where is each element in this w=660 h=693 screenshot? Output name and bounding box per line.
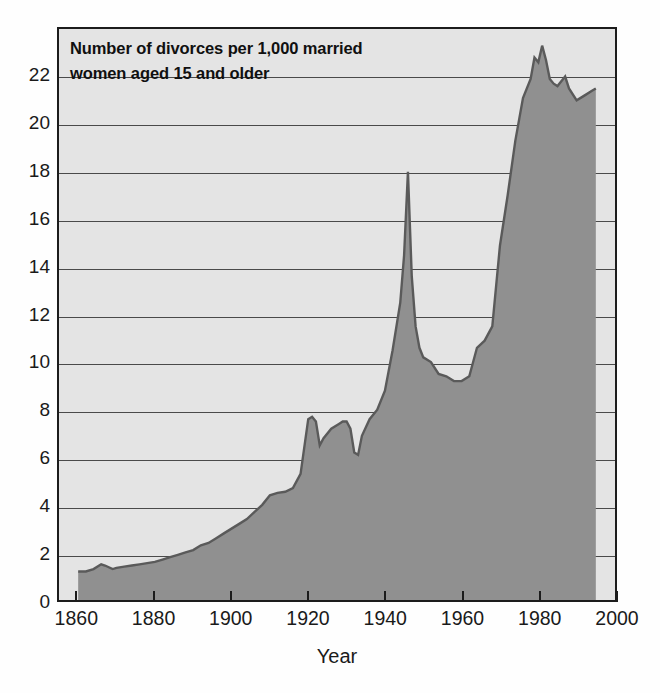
x-axis-tick-label: 1900 bbox=[209, 607, 252, 630]
divorce-rate-chart-figure: 0246810121416182022 Number of divorces p… bbox=[0, 0, 660, 693]
x-axis-tick-label: 1860 bbox=[55, 607, 98, 630]
divorce-rate-area-series bbox=[59, 29, 615, 600]
x-axis-tick-label: 1960 bbox=[441, 607, 484, 630]
x-axis-tick-mark bbox=[307, 591, 309, 602]
y-axis-tick-label: 16 bbox=[4, 208, 50, 230]
x-axis-tick-mark bbox=[462, 591, 464, 602]
chart-title-line-1: Number of divorces per 1,000 married bbox=[70, 36, 490, 61]
y-axis-tick-label: 12 bbox=[4, 304, 50, 326]
chart-title: Number of divorces per 1,000 married wom… bbox=[70, 36, 490, 86]
y-axis-tick-label: 0 bbox=[4, 591, 50, 613]
y-axis-tick-label: 2 bbox=[4, 543, 50, 565]
x-axis-tick-marks bbox=[57, 591, 617, 603]
x-axis-tick-label: 2000 bbox=[595, 607, 638, 630]
x-axis-tick-label: 1940 bbox=[364, 607, 407, 630]
chart-title-line-2: women aged 15 and older bbox=[70, 61, 490, 86]
y-axis-tick-label: 20 bbox=[4, 112, 50, 134]
plot-area bbox=[57, 27, 617, 602]
x-axis-title: Year bbox=[57, 645, 617, 668]
y-axis-tick-label: 14 bbox=[4, 256, 50, 278]
x-axis-tick-label: 1920 bbox=[286, 607, 329, 630]
y-axis-tick-labels: 0246810121416182022 bbox=[0, 0, 50, 693]
y-axis-tick-label: 22 bbox=[4, 64, 50, 86]
x-axis-tick-mark bbox=[384, 591, 386, 602]
y-axis-tick-label: 6 bbox=[4, 447, 50, 469]
x-axis-tick-label: 1880 bbox=[132, 607, 175, 630]
x-axis-tick-label: 1980 bbox=[518, 607, 561, 630]
x-axis-tick-mark bbox=[230, 591, 232, 602]
x-axis-tick-mark bbox=[539, 591, 541, 602]
y-axis-tick-label: 8 bbox=[4, 399, 50, 421]
x-axis-tick-labels: 18601880190019201940196019802000 bbox=[57, 607, 617, 633]
x-axis-tick-mark bbox=[153, 591, 155, 602]
y-axis-tick-label: 10 bbox=[4, 351, 50, 373]
x-axis-tick-mark bbox=[616, 591, 618, 602]
y-axis-tick-label: 4 bbox=[4, 495, 50, 517]
x-axis-tick-mark bbox=[75, 591, 77, 602]
y-axis-tick-label: 18 bbox=[4, 160, 50, 182]
